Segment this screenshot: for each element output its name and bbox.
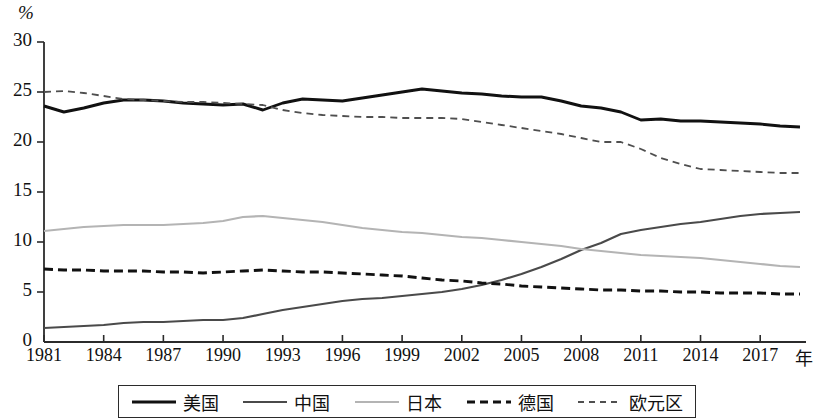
- chart-figure: % 年 051015202530 19811984198719901993199…: [0, 0, 823, 420]
- series-line-中国: [44, 212, 800, 328]
- series-line-美国: [44, 89, 800, 127]
- legend-item-中国: 中国: [240, 389, 332, 415]
- legend-swatch-icon: [577, 396, 623, 408]
- series-line-德国: [44, 269, 800, 294]
- legend-label: 德国: [518, 389, 554, 415]
- legend-swatch-icon: [354, 396, 400, 408]
- legend-label: 欧元区: [629, 389, 683, 415]
- legend-swatch-icon: [131, 396, 177, 408]
- series-line-欧元区: [44, 91, 800, 173]
- chart-series-layer: [44, 89, 800, 328]
- legend-item-日本: 日本: [352, 389, 444, 415]
- chart-legend: 美国中国日本德国欧元区: [118, 385, 696, 418]
- line-chart-plot: [0, 0, 823, 420]
- legend-swatch-icon: [242, 396, 288, 408]
- legend-item-德国: 德国: [464, 389, 556, 415]
- legend-swatch-icon: [466, 396, 512, 408]
- legend-label: 美国: [183, 389, 219, 415]
- legend-item-美国: 美国: [129, 389, 221, 415]
- legend-item-欧元区: 欧元区: [575, 389, 685, 415]
- legend-label: 日本: [406, 389, 442, 415]
- legend-label: 中国: [294, 389, 330, 415]
- chart-axes: [37, 42, 806, 342]
